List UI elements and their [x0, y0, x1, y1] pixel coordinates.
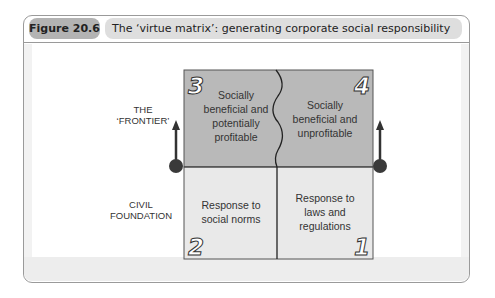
cell-4-line: unprofitable	[282, 126, 368, 140]
right-frontier-arrow-icon	[373, 120, 387, 173]
cell-1-line: Response to	[280, 191, 370, 205]
cell-1-line: regulations	[280, 219, 370, 233]
civil-foundation-line1: CIVIL	[96, 199, 186, 210]
left-frontier-arrow-icon	[169, 120, 183, 173]
cell-4-line: Socially	[282, 98, 368, 112]
cell-3-text: Socially beneficial and potentially prof…	[194, 88, 278, 144]
cell-1-line: laws and	[280, 205, 370, 219]
cell-4-line: beneficial and	[282, 112, 368, 126]
cell-2-text: Response to social norms	[188, 198, 274, 226]
cell-3-line: potentially	[194, 116, 278, 130]
cell-1-text: Response to laws and regulations	[280, 191, 370, 233]
frontier-label-line1: THE	[100, 104, 186, 115]
civil-foundation-line2: FOUNDATION	[96, 210, 186, 221]
cell-2-line: Response to	[188, 198, 274, 212]
cell-number-4: 4	[353, 73, 370, 99]
virtue-matrix: 3 4 2 1	[0, 0, 495, 298]
frontier-label-line2: ‘FRONTIER’	[100, 115, 186, 126]
frontier-label: THE ‘FRONTIER’	[100, 104, 186, 126]
cell-3-line: profitable	[194, 130, 278, 144]
cell-number-2: 2	[188, 234, 204, 260]
cell-3-line: beneficial and	[194, 102, 278, 116]
cell-4-text: Socially beneficial and unprofitable	[282, 98, 368, 140]
cell-number-1: 1	[354, 234, 370, 260]
cell-3-line: Socially	[194, 88, 278, 102]
civil-foundation-label: CIVIL FOUNDATION	[96, 199, 186, 221]
cell-2-line: social norms	[188, 212, 274, 226]
